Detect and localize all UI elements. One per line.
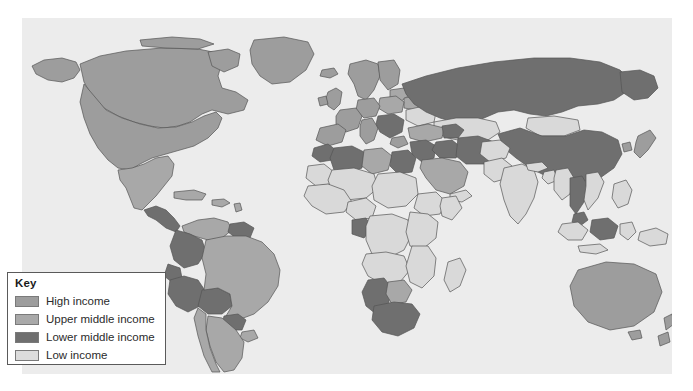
legend-item-upper-middle-income: Upper middle income	[15, 310, 165, 328]
legend-label-low-income: Low income	[46, 349, 107, 362]
legend-swatch-upper-middle-income	[15, 314, 39, 325]
legend-swatch-high-income	[15, 296, 39, 307]
region-south-korea	[622, 142, 632, 152]
legend-label-high-income: High income	[46, 295, 110, 308]
legend-item-low-income: Low income	[15, 346, 165, 364]
legend-swatch-lower-middle-income	[15, 332, 39, 343]
legend-title: Key	[15, 277, 165, 290]
legend-label-upper-middle-income: Upper middle income	[46, 313, 155, 326]
region-ireland	[318, 96, 328, 106]
legend-item-lower-middle-income: Lower middle income	[15, 328, 165, 346]
map-legend: Key High income Upper middle income Lowe…	[7, 272, 166, 365]
legend-item-high-income: High income	[15, 292, 165, 310]
screenshot-root: Key High income Upper middle income Lowe…	[0, 0, 693, 391]
legend-swatch-low-income	[15, 350, 39, 361]
legend-label-lower-middle-income: Lower middle income	[46, 331, 155, 344]
